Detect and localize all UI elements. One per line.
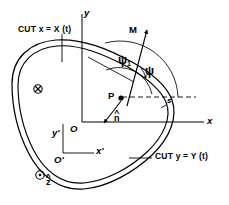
psi1-label: ψ1 <box>118 54 131 67</box>
z-axis-label: ^z <box>46 178 51 187</box>
z-hat-wrap: ^z <box>46 178 51 187</box>
y-prime-axis-label: y' <box>52 128 60 138</box>
x-prime-axis-label: x' <box>96 146 104 156</box>
cross-section-outline <box>12 40 174 189</box>
origin-prime-label: O' <box>54 155 64 165</box>
point-p-label: P <box>108 91 114 101</box>
into-page-marker-group <box>34 85 42 93</box>
psi-label: ψ <box>145 65 154 77</box>
arc-length-label: s <box>167 97 171 105</box>
figure-container: CUT x = X (t) CUT y = Y (t) y x O y' x' … <box>0 0 229 205</box>
point-p-marker <box>118 95 123 100</box>
z-hat-accent: ^ <box>46 173 51 182</box>
secondary-axes-group <box>63 124 94 153</box>
n-hat-accent: ^ <box>114 109 119 118</box>
psi1-subscript: 1 <box>127 60 131 67</box>
normal-vector-label: ^n <box>114 114 120 123</box>
y-axis-label: y <box>84 8 89 18</box>
origin-label: O <box>70 124 77 134</box>
arc-length-tick-group <box>161 105 166 108</box>
arc-length-tick <box>161 105 166 108</box>
moment-label: M <box>129 25 137 35</box>
psi1-glyph: ψ <box>118 53 127 67</box>
cut-x-label: CUT x = X (t) <box>18 25 71 34</box>
n-hat-wrap: ^n <box>114 114 120 123</box>
out-of-page-marker-group <box>36 171 44 179</box>
point-p-group <box>118 95 123 100</box>
x-axis-label: x <box>207 116 212 126</box>
outline-outer <box>12 40 174 189</box>
dot-in-circle-center <box>39 174 42 177</box>
cut-y-label: CUT y = Y (t) <box>155 152 208 161</box>
